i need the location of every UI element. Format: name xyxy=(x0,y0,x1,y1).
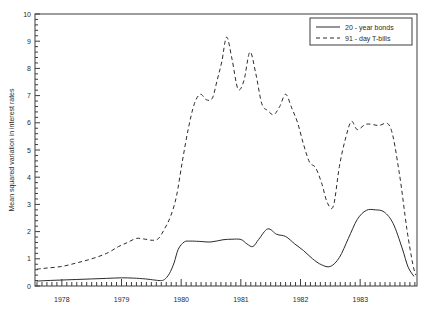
y-axis-tick-label: 7 xyxy=(27,92,31,99)
x-axis-tick-label: 1982 xyxy=(293,296,309,303)
x-axis-tick-label: 1978 xyxy=(54,296,70,303)
y-axis-tick-label: 5 xyxy=(27,147,31,154)
x-axis-tick-label: 1980 xyxy=(173,296,189,303)
y-axis-tick-label: 0 xyxy=(27,283,31,290)
legend-label-1: 20 - year bonds xyxy=(345,24,394,32)
y-axis-tick-label: 2 xyxy=(27,228,31,235)
y-axis-tick-label: 9 xyxy=(27,38,31,45)
y-axis-tick-label: 1 xyxy=(27,255,31,262)
x-axis-tick-label: 1983 xyxy=(353,296,369,303)
y-axis-tick-label: 3 xyxy=(27,201,31,208)
legend-label-2: 91 - day T-bills xyxy=(345,35,391,43)
y-axis-tick-label: 10 xyxy=(23,11,31,18)
x-axis-tick-label: 1979 xyxy=(114,296,130,303)
plot-frame xyxy=(35,14,417,286)
y-axis-tick-label: 8 xyxy=(27,65,31,72)
y-axis-title: Mean squared variation in interest rates xyxy=(8,88,16,211)
y-axis-tick-label: 6 xyxy=(27,119,31,126)
series-line-1 xyxy=(37,209,414,281)
line-chart: 012345678910197819791980198119821983Mean… xyxy=(0,0,429,319)
y-axis-tick-label: 4 xyxy=(27,174,31,181)
x-axis-tick-label: 1981 xyxy=(233,296,249,303)
chart-container: 012345678910197819791980198119821983Mean… xyxy=(0,0,429,319)
